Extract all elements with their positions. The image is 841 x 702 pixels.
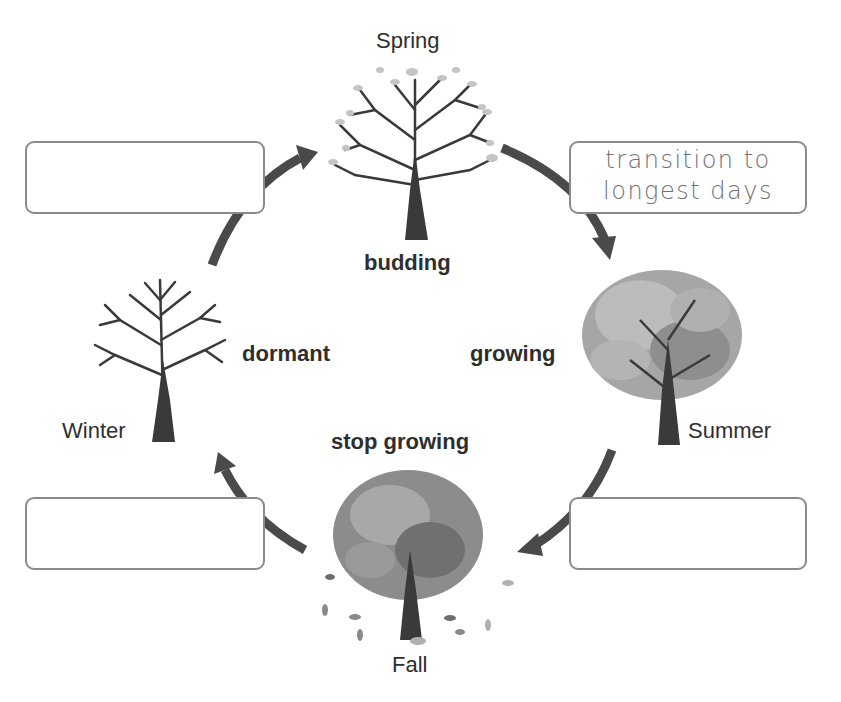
- answer-box-fall-to-winter[interactable]: [25, 497, 265, 570]
- stage-label-budding: budding: [364, 250, 451, 276]
- spring-tree-image: [328, 67, 498, 240]
- season-label-winter: Winter: [62, 418, 126, 444]
- stage-label-stop-growing: stop growing: [331, 429, 469, 455]
- fall-tree-image: [322, 470, 514, 645]
- cycle-diagram: [0, 0, 841, 702]
- answer-box-summer-to-fall[interactable]: [569, 497, 807, 570]
- season-label-spring: Spring: [376, 28, 440, 54]
- season-label-fall: Fall: [392, 652, 427, 678]
- answer-line-1: transition to: [581, 145, 795, 176]
- answer-line-2: longest days: [581, 176, 795, 207]
- stage-label-growing: growing: [470, 341, 556, 367]
- season-label-summer: Summer: [688, 418, 771, 444]
- answer-input-summer-to-fall[interactable]: [571, 499, 805, 568]
- answer-box-spring-to-summer[interactable]: transition to longest days: [569, 141, 807, 214]
- answer-input-fall-to-winter[interactable]: [27, 499, 263, 568]
- answer-text-spring-to-summer[interactable]: transition to longest days: [571, 143, 805, 212]
- answer-box-winter-to-spring[interactable]: [25, 141, 265, 214]
- answer-input-winter-to-spring[interactable]: [27, 143, 263, 212]
- stage-label-dormant: dormant: [242, 341, 330, 367]
